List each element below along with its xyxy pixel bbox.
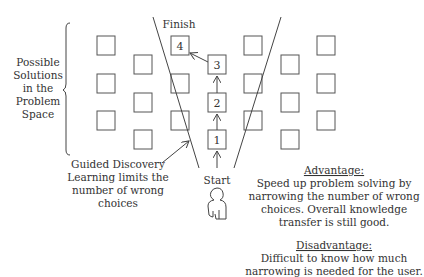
svg-text:Possible: Possible <box>16 56 59 68</box>
solution-box <box>134 130 152 149</box>
guided-discovery-label: Guided Discovery Learning limits the num… <box>67 158 169 209</box>
solution-box <box>134 55 152 74</box>
solution-box <box>134 93 152 112</box>
solution-box <box>244 74 262 93</box>
svg-text:Guided Discovery: Guided Discovery <box>71 158 165 170</box>
solution-box <box>317 74 335 93</box>
svg-text:Speed up problem solving by: Speed up problem solving by <box>257 177 412 189</box>
advantage-block: Advantage: Speed up problem solving by n… <box>248 164 419 228</box>
step-number-3: 3 <box>214 59 221 72</box>
arrow-3-to-4 <box>190 53 208 62</box>
funnel-right-line <box>234 17 281 168</box>
svg-text:Solutions: Solutions <box>13 69 63 81</box>
disadvantage-heading: Disadvantage: <box>296 239 372 251</box>
solution-box <box>317 36 335 55</box>
svg-text:number of wrong: number of wrong <box>72 184 164 196</box>
solution-box <box>281 55 299 74</box>
possible-solutions-label: Possible Solutions in the Problem Space <box>13 56 63 120</box>
guided-discovery-arrow <box>162 141 189 163</box>
solution-box <box>281 93 299 112</box>
guided-discovery-diagram: Possible Solutions in the Problem Space <box>0 0 424 277</box>
solution-boxes <box>97 36 335 149</box>
start-label: Start <box>204 174 232 186</box>
advantage-heading: Advantage: <box>303 164 364 176</box>
disadvantage-block: Disadvantage: Difficult to know how much… <box>245 239 423 277</box>
finish-label: Finish <box>163 18 196 30</box>
svg-text:transfer is still good.: transfer is still good. <box>279 216 390 228</box>
svg-text:choices: choices <box>98 197 138 209</box>
solution-box <box>281 130 299 149</box>
svg-text:narrowing the number of wrong: narrowing the number of wrong <box>248 190 419 202</box>
solution-box <box>244 36 262 55</box>
step-number-1: 1 <box>214 134 221 147</box>
curly-brace-icon <box>63 23 70 155</box>
svg-text:Difficult to know how much: Difficult to know how much <box>261 252 408 264</box>
solution-box <box>97 36 115 55</box>
solution-box <box>317 111 335 130</box>
step-number-2: 2 <box>214 97 221 110</box>
solution-box <box>97 74 115 93</box>
svg-text:Space: Space <box>22 108 54 120</box>
svg-text:Learning limits the: Learning limits the <box>67 171 169 183</box>
svg-text:Problem: Problem <box>16 95 61 107</box>
person-outline-icon <box>208 188 226 219</box>
svg-text:in the: in the <box>23 82 54 94</box>
solution-box <box>97 111 115 130</box>
svg-text:choices. Overall knowledge: choices. Overall knowledge <box>261 203 407 215</box>
step-number-4: 4 <box>177 40 184 53</box>
svg-text:narrowing is needed for the us: narrowing is needed for the user. <box>245 265 423 277</box>
